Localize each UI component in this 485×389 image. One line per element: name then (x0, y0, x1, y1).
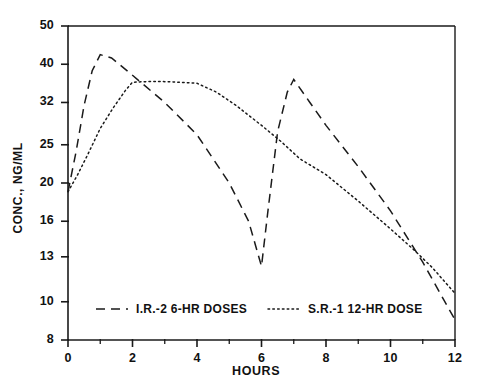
x-tick-label: 0 (48, 351, 88, 365)
legend-item-ir2-label: I.R.-2 6-HR DOSES (136, 302, 247, 316)
x-tick-label: 6 (242, 351, 282, 365)
y-tick-label: 16 (0, 213, 54, 227)
y-tick-label: 50 (0, 18, 54, 32)
y-tick-label: 20 (0, 175, 54, 189)
x-tick-label: 10 (371, 351, 411, 365)
x-axis-title: HOURS (232, 364, 280, 378)
x-tick-label: 4 (177, 351, 217, 365)
y-tick-label: 10 (0, 294, 54, 308)
y-tick-label: 25 (0, 137, 54, 151)
x-tick-label: 8 (306, 351, 346, 365)
x-tick-label: 12 (435, 351, 475, 365)
data-series-group (68, 55, 455, 320)
concentration-time-chart: CONC., NG/ML 81013162025324050 024681012… (0, 0, 485, 389)
x-tick-label: 2 (113, 351, 153, 365)
y-tick-label: 8 (0, 332, 54, 346)
y-tick-label: 32 (0, 94, 54, 108)
chart-canvas: CONC., NG/ML (0, 0, 485, 389)
y-tick-label: 13 (0, 249, 54, 263)
legend-item-sr1-label: S.R.-1 12-HR DOSE (308, 302, 422, 316)
y-tick-label: 40 (0, 56, 54, 70)
series-line-ir2 (68, 55, 455, 320)
